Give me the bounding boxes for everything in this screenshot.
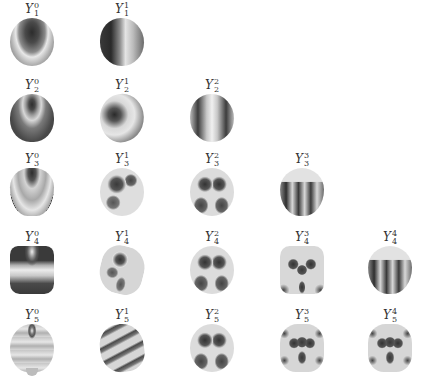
harmonic-label: Y34 <box>272 228 332 246</box>
harmonic-label: Y45 <box>360 306 420 324</box>
degree-l: 3 <box>34 160 39 168</box>
harmonic-cell: Y05 <box>2 306 62 378</box>
degree-l: 5 <box>34 316 39 324</box>
harmonic-cell: Y15 <box>92 306 152 378</box>
harmonic-cell: Y22 <box>182 76 242 148</box>
harmonic-cell: Y24 <box>182 228 242 300</box>
harmonic-surface <box>190 324 234 372</box>
harmonic-label: Y14 <box>92 228 152 246</box>
harmonic-surface <box>10 324 54 372</box>
harmonic-surface <box>10 94 54 142</box>
symbol: Y <box>115 230 123 244</box>
harmonic-surface <box>280 168 324 216</box>
symbol: Y <box>383 308 391 322</box>
harmonic-surface <box>280 324 324 372</box>
degree-l: 4 <box>34 238 39 246</box>
harmonic-cell: Y23 <box>182 150 242 222</box>
harmonic-cell: Y13 <box>92 150 152 222</box>
harmonic-cell: Y25 <box>182 306 242 378</box>
degree-l: 2 <box>124 86 129 94</box>
harmonic-surface <box>280 246 324 294</box>
symbol: Y <box>115 2 123 16</box>
harmonic-surface <box>190 246 234 294</box>
symbol: Y <box>295 230 303 244</box>
degree-l: 4 <box>392 238 397 246</box>
harmonic-surface <box>95 90 148 146</box>
harmonic-surface <box>97 321 147 375</box>
harmonic-label: Y11 <box>92 0 152 18</box>
harmonic-label: Y13 <box>92 150 152 168</box>
harmonic-label: Y15 <box>92 306 152 324</box>
symbol: Y <box>25 152 33 166</box>
harmonic-cell: Y34 <box>272 228 332 300</box>
harmonic-label: Y03 <box>2 150 62 168</box>
harmonic-label: Y22 <box>182 76 242 94</box>
harmonic-surface <box>190 94 234 142</box>
harmonic-surface <box>368 246 412 294</box>
harmonic-cell: Y33 <box>272 150 332 222</box>
harmonic-cell: Y03 <box>2 150 62 222</box>
symbol: Y <box>205 78 213 92</box>
degree-l: 2 <box>34 86 39 94</box>
degree-l: 4 <box>214 238 219 246</box>
symbol: Y <box>25 308 33 322</box>
symbol: Y <box>25 230 33 244</box>
harmonic-cell: Y14 <box>92 228 152 300</box>
degree-l: 3 <box>304 160 309 168</box>
harmonic-label: Y04 <box>2 228 62 246</box>
symbol: Y <box>295 152 303 166</box>
harmonic-cell: Y12 <box>92 76 152 148</box>
harmonic-label: Y24 <box>182 228 242 246</box>
degree-l: 3 <box>214 160 219 168</box>
harmonic-label: Y25 <box>182 306 242 324</box>
harmonic-surface <box>10 246 54 294</box>
harmonic-label: Y33 <box>272 150 332 168</box>
harmonic-label: Y44 <box>360 228 420 246</box>
harmonic-cell: Y02 <box>2 76 62 148</box>
symbol: Y <box>295 308 303 322</box>
degree-l: 5 <box>214 316 219 324</box>
harmonic-cell: Y35 <box>272 306 332 378</box>
symbol: Y <box>115 78 123 92</box>
harmonic-label: Y02 <box>2 76 62 94</box>
harmonic-cell: Y45 <box>360 306 420 378</box>
symbol: Y <box>205 230 213 244</box>
harmonic-surface <box>100 168 144 216</box>
harmonic-cell: Y04 <box>2 228 62 300</box>
harmonic-label: Y23 <box>182 150 242 168</box>
degree-l: 3 <box>124 160 129 168</box>
degree-l: 4 <box>304 238 309 246</box>
harmonic-surface <box>100 18 144 66</box>
harmonic-surface <box>190 168 234 216</box>
harmonic-label: Y35 <box>272 306 332 324</box>
harmonic-label: Y05 <box>2 306 62 324</box>
degree-l: 1 <box>124 10 129 18</box>
symbol: Y <box>205 308 213 322</box>
harmonic-cell: Y01 <box>2 0 62 72</box>
degree-l: 4 <box>124 238 129 246</box>
harmonic-label: Y01 <box>2 0 62 18</box>
harmonic-surface <box>368 324 412 372</box>
degree-l: 5 <box>392 316 397 324</box>
harmonic-stem <box>26 368 38 376</box>
degree-l: 2 <box>214 86 219 94</box>
symbol: Y <box>115 152 123 166</box>
harmonic-surface <box>95 241 149 298</box>
harmonic-label: Y12 <box>92 76 152 94</box>
degree-l: 5 <box>304 316 309 324</box>
symbol: Y <box>25 2 33 16</box>
symbol: Y <box>25 78 33 92</box>
harmonic-cell: Y44 <box>360 228 420 300</box>
symbol: Y <box>115 308 123 322</box>
harmonic-cell: Y11 <box>92 0 152 72</box>
degree-l: 1 <box>34 10 39 18</box>
harmonic-surface <box>10 168 54 216</box>
harmonic-surface <box>10 18 54 66</box>
degree-l: 5 <box>124 316 129 324</box>
symbol: Y <box>205 152 213 166</box>
symbol: Y <box>383 230 391 244</box>
